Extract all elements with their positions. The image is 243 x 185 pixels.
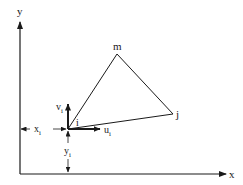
- x-axis-label: x: [229, 168, 235, 180]
- y-dimension-label: yi: [64, 145, 71, 159]
- v-displacement-label: vi: [56, 101, 63, 115]
- u-sub: i: [109, 130, 111, 138]
- node-i-label: i: [76, 117, 79, 128]
- node-j-label: j: [175, 108, 179, 120]
- diagram-canvas: y x m j i vi ui xi yi: [0, 0, 243, 185]
- u-displacement-label: ui: [104, 124, 111, 138]
- node-m-label: m: [113, 40, 122, 52]
- x-dim-sub: i: [39, 129, 41, 137]
- element-outline: [68, 54, 173, 129]
- triangle-element: m j i: [68, 40, 179, 129]
- displacement-vectors: vi ui: [56, 101, 111, 138]
- x-dimension-label: xi: [34, 123, 41, 137]
- dimensions: xi yi: [21, 123, 71, 172]
- v-sub: i: [61, 107, 63, 115]
- y-dim-sub: i: [69, 151, 71, 159]
- axes: y x: [17, 5, 235, 180]
- y-axis-label: y: [17, 5, 23, 17]
